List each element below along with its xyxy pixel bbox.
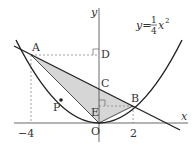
label-p: P — [53, 101, 61, 114]
label-c: C — [101, 77, 109, 90]
svg-text:1: 1 — [151, 15, 157, 25]
label-b: B — [131, 92, 139, 105]
label-e: E — [91, 106, 99, 119]
tick-2: 2 — [130, 127, 137, 140]
label-origin: O — [91, 125, 100, 138]
label-x-axis: x — [181, 110, 188, 123]
svg-text:y=: y= — [135, 19, 151, 32]
svg-text:4: 4 — [151, 26, 157, 36]
svg-text:2: 2 — [165, 17, 169, 25]
diagram-canvas: A B C D E P O x y −4 2 y= 1 4 x 2 — [0, 0, 196, 149]
label-a: A — [31, 41, 41, 54]
svg-text:x: x — [158, 19, 165, 32]
label-d: D — [101, 48, 110, 61]
tick-neg4: −4 — [18, 127, 34, 140]
label-y-axis: y — [90, 6, 98, 19]
equation-label: y= 1 4 x 2 — [135, 15, 169, 36]
